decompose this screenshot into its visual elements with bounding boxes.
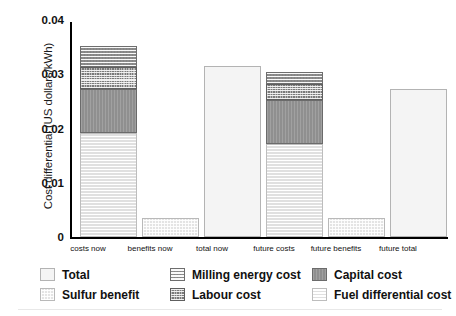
bar-total-now[interactable] bbox=[204, 66, 261, 237]
y-tick-label: 0.02 bbox=[42, 123, 64, 135]
legend-label: Capital cost bbox=[334, 269, 402, 281]
chart-legend: Total Milling energy cost Capital cost S… bbox=[24, 268, 436, 308]
legend-item-sulfur-benefit[interactable]: Sulfur benefit bbox=[40, 288, 139, 301]
legend-row-2: Sulfur benefit Labour cost Fuel differen… bbox=[24, 288, 436, 306]
legend-swatch-capital-cost-icon bbox=[312, 268, 327, 281]
segment-milling-energy-cost bbox=[266, 72, 323, 84]
y-tick-label: 0 bbox=[58, 231, 64, 243]
legend-label: Sulfur benefit bbox=[62, 289, 139, 301]
bar-future-costs[interactable] bbox=[266, 72, 323, 237]
bar-benefits-now[interactable] bbox=[142, 218, 199, 237]
legend-item-total[interactable]: Total bbox=[40, 268, 90, 281]
segment-labour-cost bbox=[80, 67, 137, 89]
segment-labour-cost bbox=[266, 84, 323, 100]
plot-area bbox=[70, 22, 448, 239]
segment-capital-cost bbox=[80, 89, 137, 132]
legend-divider bbox=[18, 309, 442, 310]
bar-future-benefits[interactable] bbox=[328, 218, 385, 237]
legend-label: Labour cost bbox=[192, 289, 261, 301]
segment-fuel-differential-cost bbox=[266, 144, 323, 237]
x-tick-label-future-total: future total bbox=[358, 244, 438, 253]
legend-label: Fuel differential cost bbox=[334, 289, 451, 301]
legend-row-1: Total Milling energy cost Capital cost bbox=[24, 268, 436, 286]
y-tick-label: 0.03 bbox=[42, 68, 64, 80]
segment-milling-energy-cost bbox=[80, 46, 137, 67]
legend-label: Total bbox=[62, 269, 90, 281]
legend-label: Milling energy cost bbox=[192, 269, 301, 281]
segment-sulfur-benefit bbox=[328, 218, 385, 237]
legend-item-capital-cost[interactable]: Capital cost bbox=[312, 268, 402, 281]
chart-figure: Cost differential (US dollars/kWh) 0 0.0… bbox=[0, 0, 456, 316]
segment-total bbox=[204, 66, 261, 237]
legend-swatch-sulfur-benefit-icon bbox=[40, 288, 55, 301]
y-tick-label: 0.01 bbox=[42, 177, 64, 189]
y-tick-label: 0.04 bbox=[42, 14, 64, 26]
legend-item-fuel-differential-cost[interactable]: Fuel differential cost bbox=[312, 288, 451, 301]
segment-sulfur-benefit bbox=[142, 218, 199, 237]
bar-future-total[interactable] bbox=[390, 89, 447, 237]
legend-swatch-fuel-differential-cost-icon bbox=[312, 288, 327, 301]
bar-costs-now[interactable] bbox=[80, 46, 137, 237]
legend-swatch-labour-cost-icon bbox=[170, 288, 185, 301]
legend-swatch-total-icon bbox=[40, 268, 55, 281]
segment-capital-cost bbox=[266, 100, 323, 144]
legend-swatch-milling-energy-cost-icon bbox=[170, 268, 185, 281]
segment-total bbox=[390, 89, 447, 237]
segment-fuel-differential-cost bbox=[80, 133, 137, 237]
legend-item-labour-cost[interactable]: Labour cost bbox=[170, 288, 261, 301]
legend-item-milling-energy-cost[interactable]: Milling energy cost bbox=[170, 268, 301, 281]
